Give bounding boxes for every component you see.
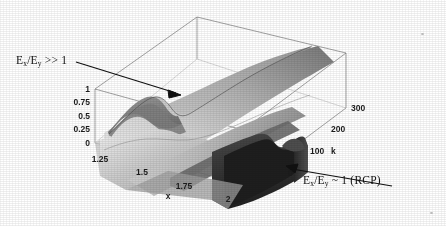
x-tick-175: 1.75 [176,182,193,191]
annotation-left-suffix: >> 1 [42,54,67,66]
x-tick-2: 2 [226,195,231,204]
k-axis-label: k [331,147,336,156]
k-tick-300: 300 [351,104,365,113]
annotation-right-suffix: ~ 1 (RCP) [329,174,381,186]
annotation-right-sub-y: y [325,179,329,188]
z-tick-1: 1 [85,85,90,94]
surface-mesh [95,46,334,209]
arrow-left [76,62,181,98]
surface-plot-figure [0,0,446,226]
annotation-left: Ex/Ey >> 1 [16,55,67,67]
k-tick-200: 200 [331,125,345,134]
annotation-left-sub-y: y [38,59,42,68]
annotation-left-sub-x: x [23,59,27,68]
annotation-right: Ex/Ey ~ 1 (RCP) [303,175,381,187]
z-tick-05: 0.5 [78,112,90,121]
x-axis-label: x [166,192,171,201]
z-tick-0: 0 [85,139,90,148]
z-tick-075: 0.75 [73,98,90,107]
annotation-left-mid: /E [27,54,38,66]
k-tick-0: 0 [288,169,293,178]
k-tick-100: 100 [310,147,324,156]
annotation-right-mid: /E [314,174,325,186]
annotation-right-sub-x: x [310,179,314,188]
x-tick-15: 1.5 [136,168,148,177]
z-tick-025: 0.25 [73,125,90,134]
x-tick-125: 1.25 [92,155,109,164]
